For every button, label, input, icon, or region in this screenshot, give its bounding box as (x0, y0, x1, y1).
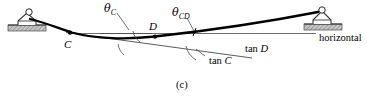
arc-theta-c (133, 31, 140, 42)
label-theta-cd: θCD (172, 7, 190, 21)
leader-line-theta-c (117, 13, 129, 30)
arc-theta-cd (186, 46, 196, 60)
theta-cd-subscript: CD (179, 12, 190, 21)
beam-deflection-figure: θC θCD C D horizontal tan D tan C (c) (0, 0, 367, 101)
label-theta-c: θC (104, 3, 116, 17)
point-marker-d (153, 34, 157, 38)
label-point-d: D (149, 21, 157, 32)
label-tan-d-point: D (260, 43, 268, 54)
right-support-base-hatch (304, 24, 342, 30)
theta-cd-symbol: θ (172, 6, 179, 19)
point-marker-c (68, 30, 72, 34)
label-horizontal: horizontal (319, 33, 362, 44)
right-support-pin-circle (319, 7, 325, 13)
label-tan-d: tan D (245, 44, 268, 55)
left-pin-support (8, 9, 46, 31)
arc-theta-c-lower (118, 44, 124, 55)
label-point-c: C (64, 39, 71, 50)
figure-caption: (c) (176, 80, 188, 91)
left-support-pin-circle (26, 9, 32, 15)
theta-c-subscript: C (111, 8, 116, 17)
leader-line-tan-c (196, 49, 205, 56)
theta-c-symbol: θ (104, 2, 111, 15)
label-tan-c: tan C (209, 56, 231, 67)
right-pin-support (304, 7, 342, 30)
left-support-base-hatch (8, 25, 46, 31)
label-tan-c-point: C (224, 55, 231, 66)
